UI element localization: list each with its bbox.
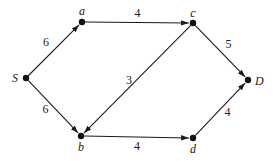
node-label-b: b bbox=[78, 140, 84, 154]
node-d bbox=[190, 135, 196, 141]
edge-b-d bbox=[84, 136, 189, 138]
node-b bbox=[78, 133, 84, 139]
node-c bbox=[190, 20, 196, 26]
node-labels: SabcdD bbox=[12, 4, 264, 156]
edge-weight-c-b: 3 bbox=[126, 73, 132, 87]
edge-c-D bbox=[195, 25, 245, 77]
node-label-c: c bbox=[190, 6, 196, 20]
edge-weight-a-c: 4 bbox=[135, 6, 141, 20]
edge-weight-S-a: 6 bbox=[43, 35, 49, 49]
edge-weight-S-b: 6 bbox=[43, 102, 49, 116]
edge-weight-b-d: 4 bbox=[134, 139, 140, 153]
graph-diagram: 6643544 SabcdD bbox=[0, 0, 274, 161]
node-a bbox=[79, 19, 85, 25]
edges bbox=[28, 22, 245, 138]
node-label-D: D bbox=[254, 74, 264, 88]
node-label-a: a bbox=[79, 4, 85, 18]
edge-weight-d-D: 4 bbox=[225, 105, 231, 119]
edge-S-a bbox=[28, 25, 79, 76]
node-label-S: S bbox=[12, 71, 18, 85]
edge-c-b bbox=[84, 25, 191, 133]
edge-S-b bbox=[28, 80, 78, 133]
edge-d-D bbox=[195, 83, 245, 136]
edge-weight-c-D: 5 bbox=[226, 37, 232, 51]
edge-a-c bbox=[85, 22, 189, 23]
node-D bbox=[245, 77, 251, 83]
node-S bbox=[23, 75, 29, 81]
node-label-d: d bbox=[190, 142, 197, 156]
